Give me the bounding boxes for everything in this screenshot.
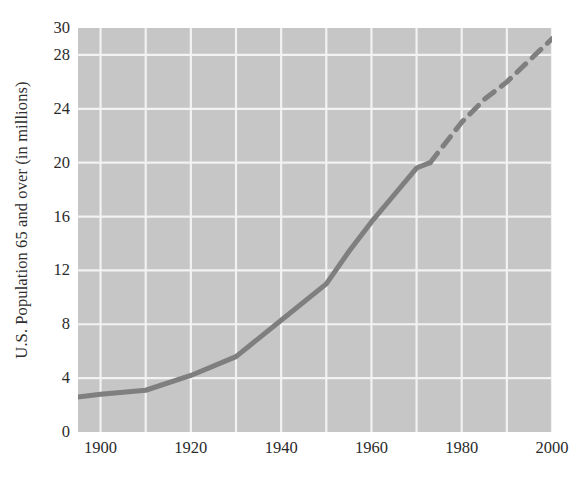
series-line-dashed	[430, 39, 552, 163]
grid-lines	[78, 28, 552, 432]
x-tick-label: 2000	[536, 440, 569, 457]
population-line-chart: U.S. Population 65 and over (in millions…	[0, 0, 586, 482]
x-tick-label: 1960	[355, 440, 388, 457]
data-series	[78, 39, 552, 397]
plot-area	[78, 28, 552, 432]
x-tick-label: 1900	[84, 440, 117, 457]
plot-canvas	[78, 28, 552, 432]
x-tick-label: 1920	[174, 440, 207, 457]
series-line-solid	[78, 163, 430, 397]
x-tick-label: 1940	[265, 440, 298, 457]
x-tick-label: 1980	[445, 440, 478, 457]
